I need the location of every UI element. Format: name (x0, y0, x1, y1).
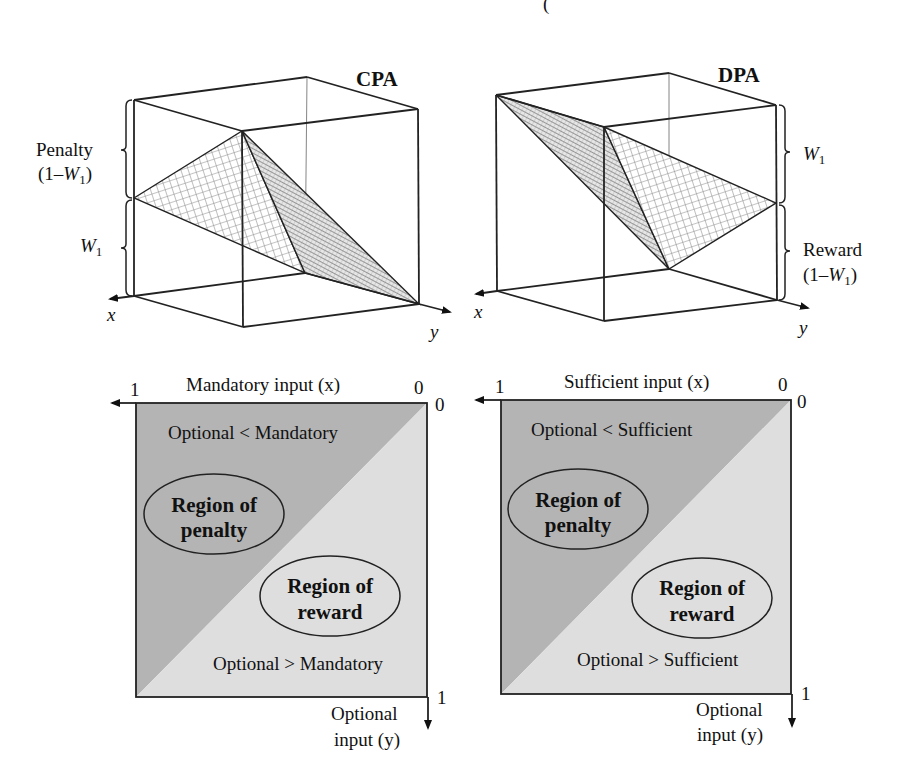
right-penalty-line1: Region of (535, 488, 622, 512)
cpa-edge (243, 304, 419, 327)
cpa-penalty-formula: (1–W1) (38, 163, 92, 187)
right-penalty-line2: penalty (545, 513, 612, 537)
cpa-penalty-brace (121, 100, 132, 198)
cpa-cube: CPA x y Penalty (1–W1) W1 (36, 67, 450, 342)
cpa-w1-brace (121, 200, 132, 296)
cpa-edge (242, 131, 243, 327)
right-reward-line1: Region of (659, 576, 746, 600)
dpa-y-axis-arrow (777, 300, 808, 308)
left-x-axis-max: 1 (130, 379, 140, 400)
dpa-title: DPA (718, 63, 760, 87)
dpa-x-axis-arrow (476, 291, 497, 294)
dpa-edge (604, 300, 777, 321)
cpa-edge (134, 100, 242, 131)
dpa-reward-formula: (1–W1) (803, 264, 857, 288)
cpa-title: CPA (356, 67, 398, 91)
cpa-axis-y-label: y (428, 321, 439, 342)
dpa-axis-x-label: x (473, 301, 483, 322)
dpa-edge (496, 95, 497, 291)
dpa-axis-y-label: y (797, 317, 808, 338)
dpa-edge (497, 291, 604, 321)
left-y-axis-label-line1: Optional (331, 703, 398, 724)
cpa-edge (418, 109, 419, 304)
left-y-axis-label-line2: input (y) (334, 729, 400, 751)
right-lower-region-text: Optional > Sufficient (577, 649, 739, 670)
left-y-axis-max: 1 (437, 687, 447, 708)
left-x-axis-origin: 0 (414, 377, 424, 398)
dpa-edge (497, 269, 669, 291)
right-x-axis-max: 1 (495, 376, 505, 397)
right-reward-line2: reward (670, 602, 735, 626)
cpa-y-axis-arrow (419, 304, 450, 312)
right-upper-region-text: Optional < Sufficient (531, 419, 693, 440)
dpa-reward-brace (779, 205, 790, 300)
left-upper-region-text: Optional < Mandatory (168, 422, 339, 443)
right-x-axis-label: Sufficient input (x) (564, 371, 709, 393)
left-reward-line1: Region of (287, 574, 374, 598)
cpa-penalty-label: Penalty (36, 139, 93, 160)
right-y-axis-label-line2: input (y) (697, 724, 763, 746)
dpa-edge (776, 105, 777, 300)
right-y-axis-max: 1 (801, 683, 811, 704)
top-fragment: ( (543, 0, 549, 15)
dpa-reward-label: Reward (803, 239, 863, 260)
cpa-edge (134, 77, 307, 100)
dpa-edge (604, 105, 776, 127)
right-y-axis-label-line1: Optional (696, 699, 763, 720)
dpa-w1-label: W1 (803, 143, 825, 167)
left-x-axis-label: Mandatory input (x) (186, 374, 340, 396)
left-reward-line2: reward (298, 600, 363, 624)
cpa-w1-label: W1 (80, 235, 102, 259)
left-y-axis-origin: 0 (435, 394, 445, 415)
left-penalty-line1: Region of (171, 493, 258, 517)
dpa-edge (669, 269, 777, 300)
left-penalty-line2: penalty (181, 518, 248, 542)
cpa-edge (134, 296, 243, 327)
dpa-w1-brace (779, 105, 790, 203)
cpa-edge (242, 109, 418, 131)
left-lower-region-text: Optional > Mandatory (213, 653, 384, 674)
left-square-diagram: Mandatory input (x) 1 0 0 1 Optional inp… (112, 374, 447, 751)
figure: ( CPA x y Penalty (1–W1) W1 (0, 0, 910, 780)
cpa-edge (134, 273, 305, 296)
dpa-edge (496, 73, 669, 95)
right-square-diagram: Sufficient input (x) 1 0 0 1 Optional in… (476, 371, 811, 746)
cpa-axis-x-label: x (106, 304, 116, 325)
right-y-axis-origin: 0 (797, 391, 807, 412)
dpa-cube: DPA x y W1 Reward (1–W1) (473, 63, 863, 338)
right-x-axis-origin: 0 (778, 374, 788, 395)
